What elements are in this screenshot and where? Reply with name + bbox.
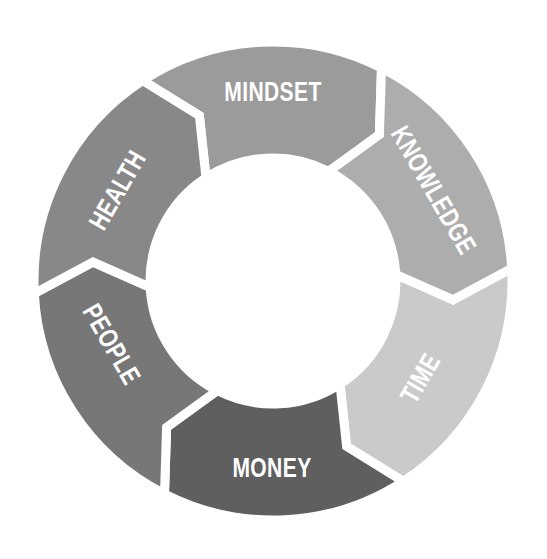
- segment-label-mindset: MINDSET: [224, 77, 321, 107]
- segment-label-money: MONEY: [232, 453, 311, 483]
- cycle-diagram: MINDSETKNOWLEDGETIMEMONEYPEOPLEHEALTH: [0, 0, 547, 559]
- center-circle: [153, 161, 393, 401]
